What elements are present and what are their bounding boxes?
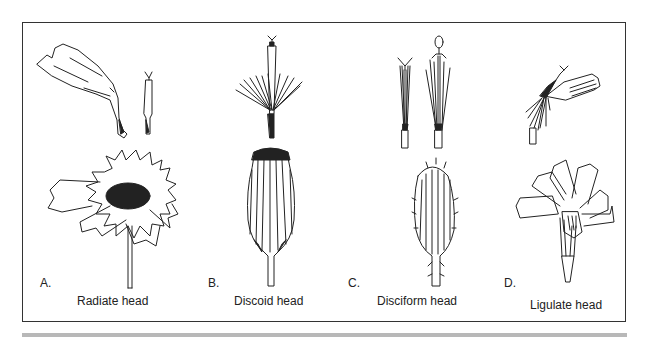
ligulate-head-illustration <box>0 0 1 1</box>
panel-c-letter: C. <box>348 276 360 290</box>
panel-b-letter: B. <box>208 276 219 290</box>
panel-d-letter: D. <box>504 276 516 290</box>
panel-a-caption: Radiate head <box>77 294 148 308</box>
panel-d-caption: Ligulate head <box>530 298 602 312</box>
panel-a-letter: A. <box>40 276 51 290</box>
divider-rule <box>22 333 627 337</box>
panel-b-caption: Discoid head <box>234 294 303 308</box>
panel-c-caption: Disciform head <box>377 294 457 308</box>
